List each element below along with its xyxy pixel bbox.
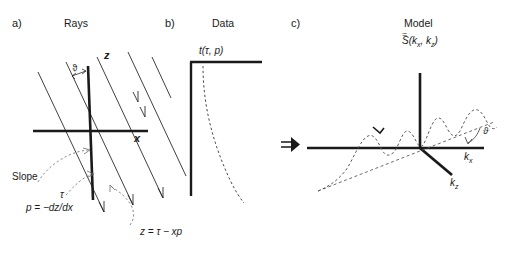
panel-b-title: Data [212,18,234,29]
ray-arrowheads [99,91,163,212]
leader-slope-head [83,148,90,154]
panel-c-angle-arc [468,128,480,143]
panel-b-function-label: t(τ, p) [199,46,223,56]
ray-line [128,52,186,176]
panel-c-model [307,73,497,191]
ray-arrowhead [140,106,145,117]
panel-c-kx-subscript: x [469,157,473,164]
panel-c-kz-axis [420,148,452,175]
panel-a-x-axis-label: x [134,133,140,144]
panel-b-data [190,62,262,203]
ray-line [66,62,133,205]
ray-arrowhead [158,187,163,198]
panel-b-letter: b) [165,18,175,29]
panel-a-letter: a) [12,18,22,29]
panel-c-kz-subscript: z [455,183,459,190]
panel-a-slope-label: Slope [12,172,38,182]
panel-a-slope-formula: p = −dz/dx [26,203,73,213]
panel-a-rays [33,52,186,225]
panel-c-angle-label: ϑ [483,126,488,136]
ray-arrowhead [128,194,133,205]
ray-line [97,57,163,198]
leader-ray-formula [110,186,134,225]
panel-a-tau-label: τ [60,190,64,200]
panel-a-leader-heads [83,148,115,192]
panel-c-function-close: ) [435,35,438,46]
panel-c-title: Model [404,18,433,29]
panel-c-function-label: = S (kx, kz) [402,36,438,48]
panel-c-function-accent: = [402,30,407,39]
panel-b-data-curve [203,66,244,203]
panel-c-kz-axis-label: kz [450,178,459,190]
ray-arrowhead [99,201,104,212]
transform-arrow-head [291,137,300,152]
panel-c-spectrum-wavelet [318,110,497,191]
panel-a-title: Rays [64,18,88,29]
seismic-tau-p-transform-figure [0,0,524,259]
leader-ray-formula-head [110,185,115,192]
ray-arrowhead [133,91,138,102]
ray-line [152,57,171,98]
leader-slope [38,150,88,182]
panel-a-ray-formula: z = τ − xp [140,227,182,237]
ray-line [38,72,104,212]
panel-c-wavelet-marker [373,127,384,133]
panel-a-z-axis-label: z [104,50,110,61]
angle-arc-head-left [72,73,76,79]
panel-c-letter: c) [291,18,300,29]
transform-arrow-glyph [281,137,300,152]
panel-c-angle-arrowhead [465,137,472,144]
panel-a-leaders [38,150,134,225]
panel-c-kx-axis-label: kx [464,152,473,164]
